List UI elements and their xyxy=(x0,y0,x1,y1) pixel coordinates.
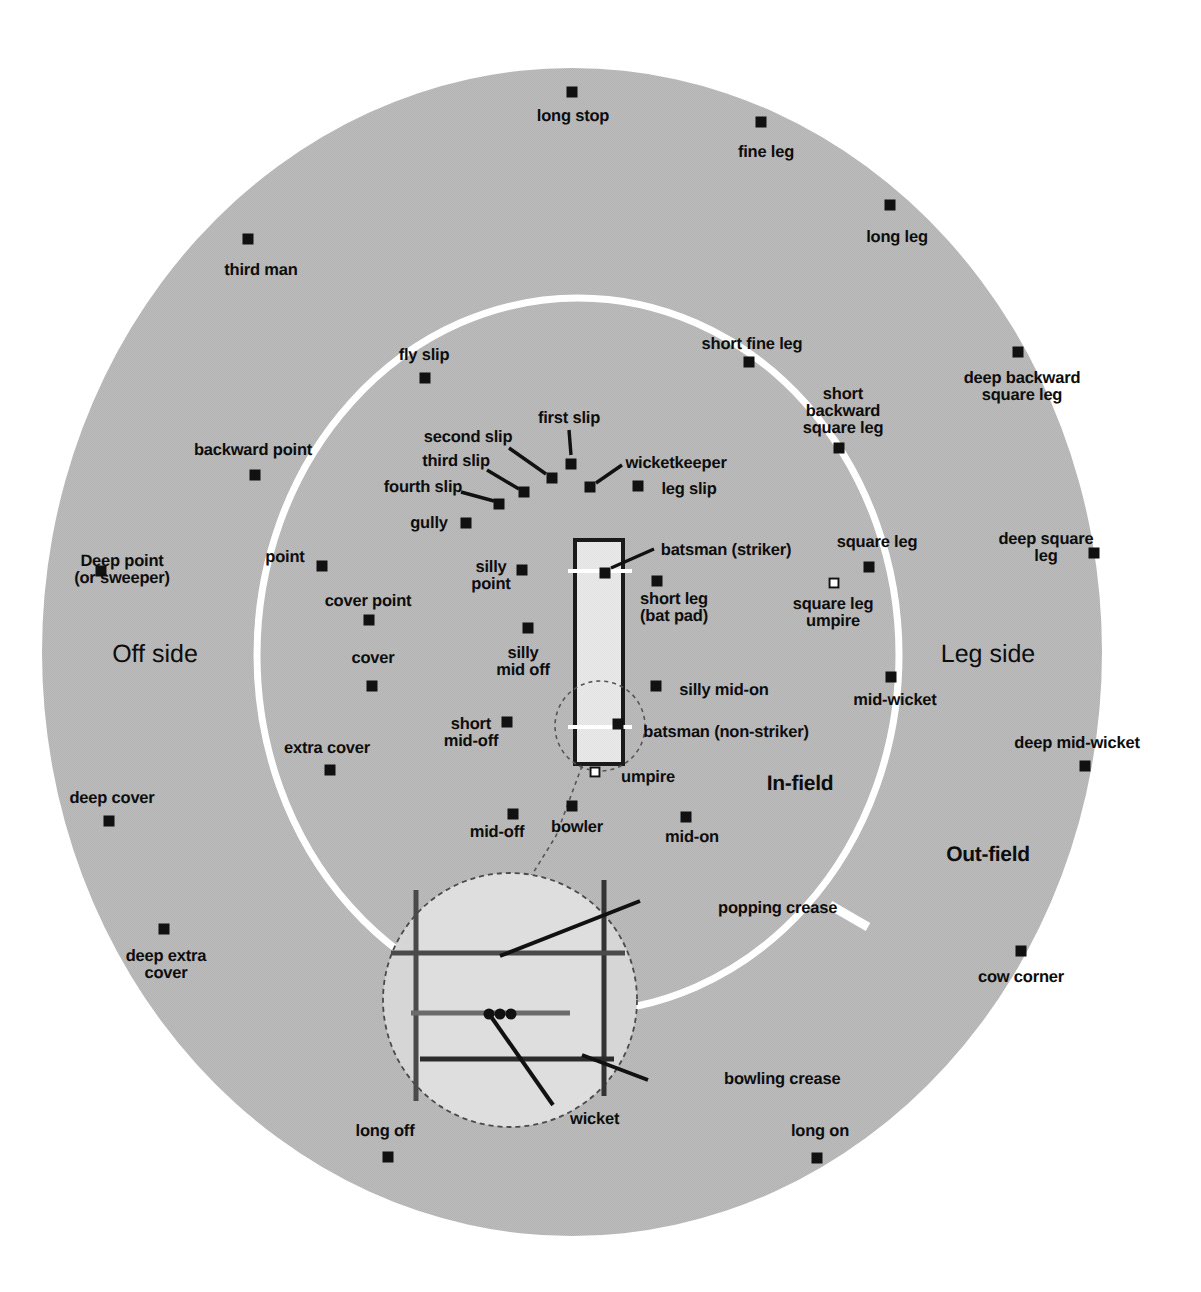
fielder-marker-silly-mid-on[interactable] xyxy=(651,681,662,692)
fielder-label-wicketkeeper: wicketkeeper xyxy=(625,455,726,472)
fielder-label-long-stop: long stop xyxy=(537,108,609,125)
fielder-label-deep-point-or-sweeper: Deep point (or sweeper) xyxy=(74,553,170,587)
fielder-marker-long-off[interactable] xyxy=(383,1152,394,1163)
fielder-marker-long-leg[interactable] xyxy=(885,200,896,211)
fielder-label-deep-square-leg: deep square leg xyxy=(998,531,1093,565)
fielder-label-first-slip: first slip xyxy=(538,410,600,427)
fielder-marker-deep-extra-cover[interactable] xyxy=(159,924,170,935)
fielder-marker-fourth-slip[interactable] xyxy=(494,499,505,510)
fielder-label-mid-off: mid-off xyxy=(470,824,525,841)
fielder-label-batsman-non-striker: batsman (non-striker) xyxy=(643,724,808,741)
fielder-label-silly-mid-off: silly mid off xyxy=(496,645,550,679)
fielder-label-cover-point: cover point xyxy=(325,593,412,610)
fielder-marker-square-leg-umpire[interactable] xyxy=(829,578,840,589)
fielder-marker-wicketkeeper[interactable] xyxy=(585,482,596,493)
fielder-marker-second-slip[interactable] xyxy=(547,473,558,484)
fielder-label-silly-point: silly point xyxy=(471,559,510,593)
fielder-label-leg-slip: leg slip xyxy=(661,481,716,498)
fielder-marker-silly-mid-off[interactable] xyxy=(523,623,534,634)
fielder-label-long-off: long off xyxy=(356,1123,415,1140)
fielder-marker-cow-corner[interactable] xyxy=(1016,946,1027,957)
zone-label-off-side: Off side xyxy=(112,642,198,668)
fielder-label-gully: gully xyxy=(410,515,448,532)
fielder-label-cow-corner: cow corner xyxy=(978,969,1064,986)
fielder-label-backward-point: backward point xyxy=(194,442,312,459)
fielder-marker-leg-slip[interactable] xyxy=(633,481,644,492)
callout-popping-crease: popping crease xyxy=(718,900,837,917)
fielder-marker-mid-off[interactable] xyxy=(508,809,519,820)
fielder-marker-extra-cover[interactable] xyxy=(325,765,336,776)
fielder-label-short-mid-off: short mid-off xyxy=(444,716,499,750)
fielder-marker-fly-slip[interactable] xyxy=(420,373,431,384)
fielder-label-extra-cover: extra cover xyxy=(284,740,370,757)
fielder-marker-gully[interactable] xyxy=(461,518,472,529)
fielder-label-silly-mid-on: silly mid-on xyxy=(679,682,768,699)
fielder-label-deep-backward-square-leg: deep backward square leg xyxy=(964,370,1081,404)
fielder-label-cover: cover xyxy=(351,650,394,667)
fielder-marker-mid-wicket[interactable] xyxy=(886,672,897,683)
zone-label-out-field: Out-field xyxy=(946,844,1030,865)
fielder-marker-deep-mid-wicket[interactable] xyxy=(1080,761,1091,772)
fielder-marker-batsman-striker[interactable] xyxy=(600,568,611,579)
fielder-marker-long-stop[interactable] xyxy=(567,87,578,98)
fielder-label-second-slip: second slip xyxy=(424,429,513,446)
fielder-label-short-fine-leg: short fine leg xyxy=(702,336,803,353)
fielder-label-short-backward-square-leg: short backward square leg xyxy=(803,386,884,436)
fielder-marker-point[interactable] xyxy=(317,561,328,572)
fielder-marker-silly-point[interactable] xyxy=(517,565,528,576)
fielder-marker-batsman-non-striker[interactable] xyxy=(613,719,624,730)
fielder-marker-square-leg[interactable] xyxy=(864,562,875,573)
fielder-label-point: point xyxy=(265,549,304,566)
cricket-field-diagram: long stopfine leglong legthird manshort … xyxy=(0,0,1201,1292)
fielder-marker-bowler[interactable] xyxy=(567,801,578,812)
fielder-marker-long-on[interactable] xyxy=(812,1153,823,1164)
callout-wicket: wicket xyxy=(570,1111,619,1128)
fielder-label-fourth-slip: fourth slip xyxy=(384,479,462,496)
fielder-marker-short-leg-bat-pad[interactable] xyxy=(652,576,663,587)
fielder-label-deep-mid-wicket: deep mid-wicket xyxy=(1014,735,1139,752)
fielder-marker-deep-backward-square-leg[interactable] xyxy=(1013,347,1024,358)
fielder-marker-backward-point[interactable] xyxy=(250,470,261,481)
fielder-label-long-leg: long leg xyxy=(866,229,928,246)
fielder-marker-cover-point[interactable] xyxy=(364,615,375,626)
fielder-marker-first-slip[interactable] xyxy=(566,459,577,470)
fielder-marker-cover[interactable] xyxy=(367,681,378,692)
fielder-label-short-leg-bat-pad: short leg (bat pad) xyxy=(640,591,708,625)
fielder-label-third-slip: third slip xyxy=(422,453,490,470)
leader-first-slip xyxy=(569,430,571,455)
fielder-label-deep-extra-cover: deep extra cover xyxy=(126,948,207,982)
fielder-marker-fine-leg[interactable] xyxy=(756,117,767,128)
fielder-label-fine-leg: fine leg xyxy=(738,144,794,161)
fielder-label-fly-slip: fly slip xyxy=(399,347,450,364)
fielder-marker-umpire[interactable] xyxy=(590,767,601,778)
fielder-marker-third-slip[interactable] xyxy=(519,487,530,498)
fielder-label-mid-on: mid-on xyxy=(665,829,719,846)
callout-bowling-crease: bowling crease xyxy=(724,1071,840,1088)
zone-label-in-field: In-field xyxy=(767,773,833,794)
fielder-marker-short-backward-square-leg[interactable] xyxy=(834,443,845,454)
fielder-marker-third-man[interactable] xyxy=(243,234,254,245)
fielder-label-long-on: long on xyxy=(791,1123,849,1140)
fielder-marker-short-fine-leg[interactable] xyxy=(744,357,755,368)
inset-stump-2 xyxy=(495,1009,506,1020)
fielder-label-umpire: umpire xyxy=(621,769,675,786)
fielder-label-batsman-striker: batsman (striker) xyxy=(661,542,791,559)
inset-stump-3 xyxy=(506,1009,517,1020)
fielder-label-third-man: third man xyxy=(224,262,297,279)
fielder-label-square-leg: square leg xyxy=(837,534,918,551)
zone-label-leg-side: Leg side xyxy=(941,642,1036,668)
fielder-label-mid-wicket: mid-wicket xyxy=(853,692,936,709)
fielder-marker-short-mid-off[interactable] xyxy=(502,717,513,728)
fielder-label-deep-cover: deep cover xyxy=(69,790,154,807)
fielder-marker-mid-on[interactable] xyxy=(681,812,692,823)
fielder-label-bowler: bowler xyxy=(551,819,603,836)
fielder-marker-deep-cover[interactable] xyxy=(104,816,115,827)
fielder-label-square-leg-umpire: square leg umpire xyxy=(793,596,874,630)
